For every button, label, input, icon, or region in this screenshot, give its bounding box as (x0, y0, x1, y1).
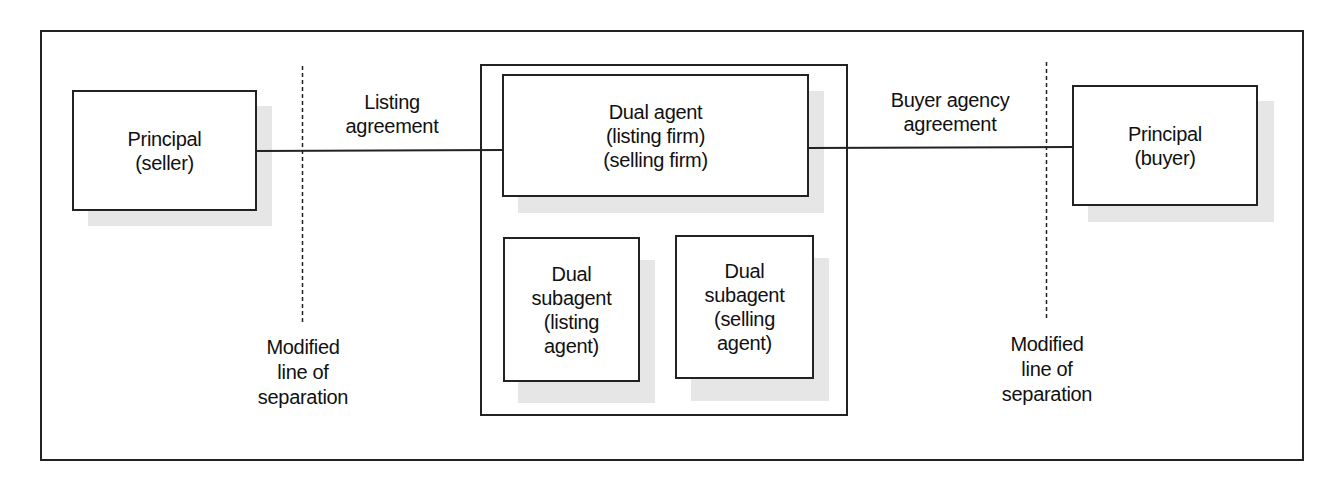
right-separation-line-3: separation (987, 382, 1107, 407)
dual-agent-line-3: (selling firm) (603, 148, 708, 172)
buyer-agency-line-1: Buyer agency (870, 88, 1030, 112)
dual-agent-line-1: Dual agent (609, 100, 703, 124)
principal-seller-line-2: (seller) (135, 151, 194, 175)
buyer-agency-agreement-label: Buyer agency agreement (870, 88, 1030, 136)
left-separation-line-2: line of (243, 360, 363, 385)
dual-subagent-listing-box: Dual subagent (listing agent) (503, 237, 640, 382)
subagent-selling-line-4: agent) (717, 331, 772, 355)
listing-agreement-line-2: agreement (322, 114, 462, 138)
principal-buyer-line-2: (buyer) (1134, 146, 1195, 170)
left-separation-label: Modified line of separation (243, 335, 363, 410)
buyer-agency-line-2: agreement (870, 112, 1030, 136)
dual-agent-line-2: (listing firm) (606, 124, 705, 148)
left-separation-line-1: Modified (243, 335, 363, 360)
principal-seller-line-1: Principal (128, 127, 202, 151)
listing-agreement-line-1: Listing (322, 90, 462, 114)
listing-agreement-label: Listing agreement (322, 90, 462, 138)
subagent-listing-line-4: agent) (544, 334, 599, 358)
left-separation-line-3: separation (243, 385, 363, 410)
right-separation-line-2: line of (987, 357, 1107, 382)
subagent-listing-line-1: Dual (552, 262, 592, 286)
right-separation-line-1: Modified (987, 332, 1107, 357)
listing-agreement-line (256, 150, 503, 151)
subagent-selling-line-1: Dual (725, 259, 765, 283)
buyer-agency-line (807, 147, 1073, 148)
subagent-listing-line-2: subagent (532, 286, 612, 310)
principal-seller-box: Principal (seller) (72, 90, 257, 211)
connector-lines (0, 0, 1338, 477)
principal-buyer-line-1: Principal (1128, 122, 1202, 146)
right-separation-label: Modified line of separation (987, 332, 1107, 407)
principal-buyer-box: Principal (buyer) (1072, 85, 1258, 206)
subagent-listing-line-3: (listing (544, 310, 599, 334)
subagent-selling-line-3: (selling (714, 307, 775, 331)
dual-subagent-selling-box: Dual subagent (selling agent) (675, 235, 814, 379)
dual-agent-box: Dual agent (listing firm) (selling firm) (502, 74, 809, 197)
subagent-selling-line-2: subagent (705, 283, 785, 307)
